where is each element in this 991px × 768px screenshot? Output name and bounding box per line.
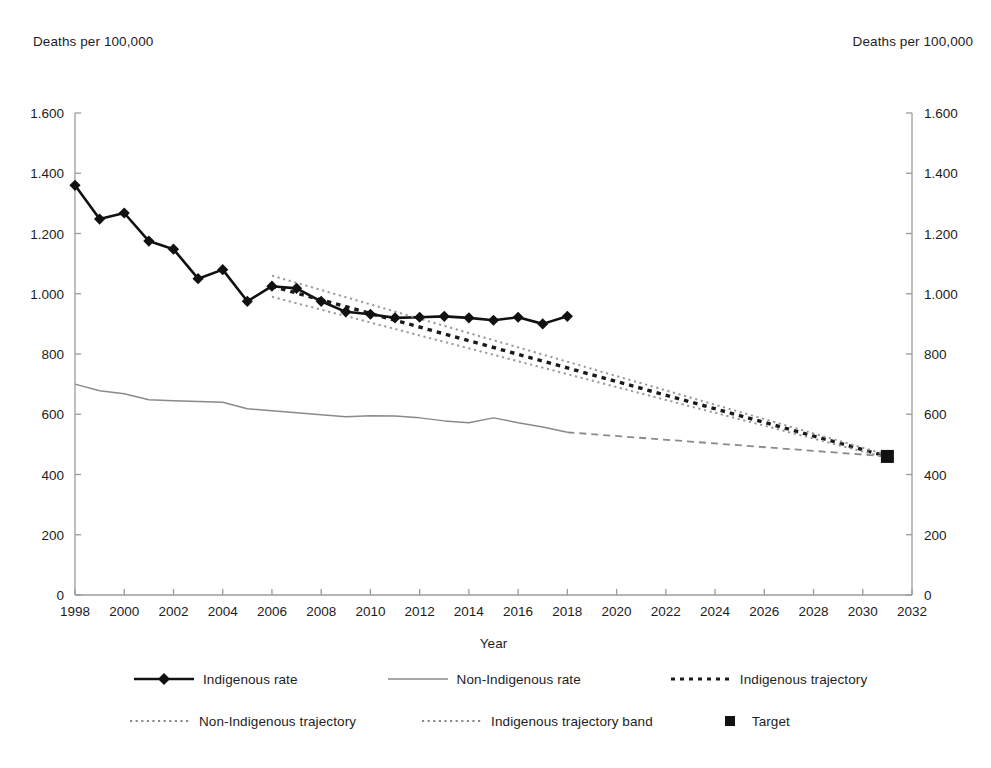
y-tick-label-left: 0 [56, 588, 64, 603]
y-tick-label-right: 600 [924, 407, 947, 422]
data-point-marker [389, 312, 400, 323]
data-markers-group [69, 180, 573, 330]
x-tick-label: 2002 [158, 604, 188, 619]
y-tick-label-right: 800 [924, 347, 947, 362]
y-tick-label-left: 1.400 [30, 166, 64, 181]
y-tick-label-left: 800 [41, 347, 64, 362]
y-tick-label-right: 1.200 [924, 227, 958, 242]
x-tick-label: 2010 [355, 604, 385, 619]
legend-label-indigenous-trajectory: Indigenous trajectory [740, 672, 867, 687]
dashed-line-black-icon [669, 672, 733, 686]
y-tick-labels-right-group: 02004006008001.0001.2001.4001.600 [924, 106, 958, 603]
x-tick-label: 2024 [700, 604, 731, 619]
legend-row-2: Non-Indigenous trajectory Indigenous tra… [0, 700, 991, 742]
data-point-marker [340, 306, 351, 317]
legend-label-target: Target [752, 714, 790, 729]
x-tick-label: 2030 [848, 604, 878, 619]
legend-item-non-indigenous-rate[interactable]: Non-Indigenous rate [386, 672, 581, 687]
legend-item-indigenous-trajectory-band[interactable]: Indigenous trajectory band [420, 714, 653, 729]
y-tick-label-left: 1.200 [30, 227, 64, 242]
data-point-marker [414, 312, 425, 323]
y-tick-label-right: 0 [924, 588, 932, 603]
x-tick-label: 2026 [749, 604, 779, 619]
legend-label-non-indigenous-rate: Non-Indigenous rate [457, 672, 581, 687]
x-tick-label: 2006 [257, 604, 287, 619]
legend-row-1: Indigenous rate Non-Indigenous rate Indi… [0, 658, 991, 700]
x-tick-label: 2028 [799, 604, 829, 619]
legend-item-indigenous-trajectory[interactable]: Indigenous trajectory [669, 672, 867, 687]
legend-item-indigenous-rate[interactable]: Indigenous rate [132, 672, 298, 687]
legend-label-non-indigenous-trajectory: Non-Indigenous trajectory [199, 714, 356, 729]
y-tick-label-right: 200 [924, 528, 947, 543]
dotted-line-gray-icon [128, 714, 192, 728]
x-tick-label: 2004 [208, 604, 239, 619]
data-point-marker [513, 312, 524, 323]
data-series-group [75, 185, 887, 458]
annotations-group [881, 450, 894, 463]
x-axis-title-group: Year [480, 636, 508, 651]
x-tick-label: 1998 [60, 604, 90, 619]
x-tick-label: 2000 [109, 604, 139, 619]
data-point-marker [537, 318, 548, 329]
series-line-indigenous-trajectory-band-upper [272, 276, 887, 455]
y-tick-label-left: 200 [41, 528, 64, 543]
legend-item-non-indigenous-trajectory[interactable]: Non-Indigenous trajectory [128, 714, 356, 729]
x-tick-labels-group: 1998200020022004200620082010201220142016… [60, 604, 927, 619]
series-line-non-indigenous-rate [75, 384, 567, 432]
legend-label-indigenous-trajectory-band: Indigenous trajectory band [491, 714, 653, 729]
x-tick-label: 2016 [503, 604, 533, 619]
x-axis-title: Year [480, 636, 508, 651]
data-point-marker [488, 315, 499, 326]
axes-group [75, 113, 912, 595]
x-tick-label: 2022 [651, 604, 681, 619]
legend-item-target[interactable]: Target [715, 714, 790, 729]
y-tick-label-right: 400 [924, 468, 947, 483]
data-point-marker [365, 309, 376, 320]
y-tick-label-right: 1.600 [924, 106, 958, 121]
x-tick-label: 2020 [602, 604, 632, 619]
legend-label-indigenous-rate: Indigenous rate [203, 672, 298, 687]
data-point-marker [439, 311, 450, 322]
y-tick-label-right: 1.400 [924, 166, 958, 181]
chart-container: Deaths per 100,000 Deaths per 100,000 19… [0, 0, 991, 768]
x-tick-label: 2032 [897, 604, 927, 619]
y-tick-label-right: 1.000 [924, 287, 958, 302]
line-gray-icon [386, 672, 450, 686]
y-tick-label-left: 1.000 [30, 287, 64, 302]
square-marker-black-icon [715, 714, 745, 728]
series-line-indigenous-trajectory [272, 286, 887, 456]
x-tick-label: 2008 [306, 604, 336, 619]
line-with-diamond-marker-icon [132, 672, 196, 686]
x-tick-label: 2018 [552, 604, 582, 619]
y-tick-label-left: 1.600 [30, 106, 64, 121]
data-point-marker [463, 312, 474, 323]
x-tick-label: 2012 [405, 604, 435, 619]
target-marker [881, 450, 894, 463]
dotted-line-gray-band-icon [420, 714, 484, 728]
chart-plot-area: 1998200020022004200620082010201220142016… [0, 0, 991, 660]
x-tick-label: 2014 [454, 604, 485, 619]
y-tick-label-left: 400 [41, 468, 64, 483]
data-point-marker [316, 296, 327, 307]
data-point-marker [562, 311, 573, 322]
chart-legend: Indigenous rate Non-Indigenous rate Indi… [0, 658, 991, 742]
y-tick-labels-left-group: 02004006008001.0001.2001.4001.600 [30, 106, 64, 603]
y-tick-label-left: 600 [41, 407, 64, 422]
